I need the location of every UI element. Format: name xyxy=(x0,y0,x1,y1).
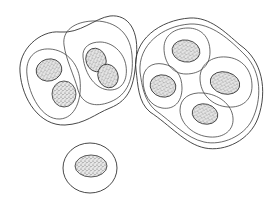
nucleus xyxy=(208,68,243,97)
nucleus xyxy=(148,72,179,100)
nucleus xyxy=(75,155,107,177)
cell-drawing xyxy=(0,0,278,205)
nucleus xyxy=(170,38,201,65)
right-colony xyxy=(136,18,263,149)
nucleus xyxy=(190,101,220,127)
nucleus xyxy=(52,81,76,107)
single-cell xyxy=(63,143,117,193)
nucleus xyxy=(34,56,65,84)
left-colony xyxy=(20,16,137,125)
